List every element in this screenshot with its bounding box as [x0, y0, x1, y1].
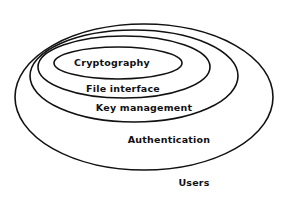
- file-interface-label: File interface: [86, 83, 160, 94]
- key-management-label: Key management: [96, 102, 193, 113]
- authentication-label: Authentication: [128, 134, 210, 145]
- cryptography-label: Cryptography: [74, 57, 150, 68]
- users-label: Users: [178, 177, 209, 188]
- nested-layer-diagram: Cryptography File interface Key manageme…: [0, 0, 287, 197]
